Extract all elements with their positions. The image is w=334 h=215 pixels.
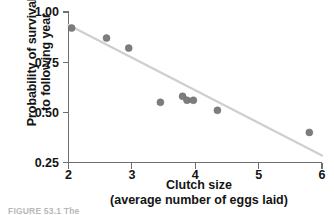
y-tick-label: 0.25	[35, 156, 59, 170]
y-axis-title-line2: to following year	[39, 0, 53, 142]
data-point	[68, 25, 75, 32]
data-point	[184, 97, 191, 104]
y-axis-ticks	[63, 12, 69, 163]
data-point	[214, 107, 221, 114]
data-point	[306, 129, 313, 136]
figure-caption: FIGURE 53.1 The	[8, 206, 128, 215]
y-axis-title-line1: Probability of survival	[25, 0, 39, 142]
x-axis-title: Clutch size (average number of eggs laid…	[68, 178, 330, 207]
x-axis-title-line2: (average number of eggs laid)	[68, 193, 330, 208]
data-point	[190, 97, 197, 104]
data-points-group	[68, 25, 313, 136]
data-point	[157, 99, 164, 106]
y-axis-title: Probability of survival to following yea…	[25, 0, 53, 142]
trend-line	[69, 25, 323, 155]
trend-line-group	[69, 25, 323, 155]
x-axis-title-line1: Clutch size	[68, 178, 330, 193]
data-point	[125, 45, 132, 52]
figure-container: 0.250.500.751.00 23456 Probability of su…	[0, 0, 334, 215]
data-point	[103, 35, 110, 42]
